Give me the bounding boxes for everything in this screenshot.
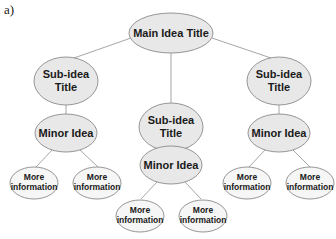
edge-main-sub-right	[212, 38, 271, 58]
info-label-line2: information	[11, 182, 58, 192]
info-label-line1: More	[87, 172, 108, 182]
edge-minor-right-leaf-2	[293, 150, 310, 167]
info-label-line1: More	[300, 172, 321, 182]
info-label-line1: More	[193, 205, 214, 215]
sub-idea-label-line1: Sub-idea	[148, 114, 195, 126]
edge-minor-left-leaf-2	[80, 150, 98, 167]
minor-idea-node-right: Minor Idea	[248, 114, 310, 152]
sub-idea-node-middle: Sub-idea Title	[139, 103, 203, 151]
sub-idea-label-line2: Title	[160, 127, 182, 139]
info-node-right-1: More information	[223, 167, 271, 199]
sub-idea-node-right: Sub-idea Title	[247, 57, 311, 105]
sub-idea-label-line1: Sub-idea	[43, 68, 90, 80]
info-label-line1: More	[130, 205, 151, 215]
sub-idea-label-line2: Title	[55, 81, 77, 93]
info-label-line2: information	[224, 182, 271, 192]
info-label-line2: information	[287, 182, 334, 192]
info-label-line2: information	[74, 182, 121, 192]
minor-idea-label: Minor Idea	[251, 127, 307, 139]
info-node-middle-1: More information	[116, 200, 164, 232]
info-node-left-2: More information	[73, 167, 121, 199]
info-label-line2: information	[117, 215, 164, 225]
minor-idea-label: Minor Idea	[38, 127, 94, 139]
minor-idea-node-left: Minor Idea	[35, 114, 97, 152]
info-label-line1: More	[237, 172, 258, 182]
main-idea-label: Main Idea Title	[133, 27, 209, 39]
info-label-line2: information	[180, 215, 227, 225]
info-node-right-2: More information	[286, 167, 334, 199]
info-node-left-1: More information	[10, 167, 58, 199]
edge-main-sub-left	[74, 38, 131, 58]
concept-map-diagram: Main Idea Title Sub-idea Title Sub-idea …	[0, 0, 336, 239]
sub-idea-node-left: Sub-idea Title	[34, 57, 98, 105]
edge-minor-left-leaf-1	[36, 150, 52, 167]
edge-minor-middle-leaf-1	[141, 182, 157, 199]
minor-idea-node-middle: Minor Idea	[140, 146, 202, 184]
info-node-middle-2: More information	[179, 200, 227, 232]
info-label-line1: More	[24, 172, 45, 182]
minor-idea-label: Minor Idea	[143, 159, 199, 171]
edge-minor-middle-leaf-2	[185, 182, 201, 199]
sub-idea-label-line1: Sub-idea	[256, 68, 303, 80]
main-idea-node: Main Idea Title	[129, 13, 213, 53]
sub-idea-label-line2: Title	[268, 81, 290, 93]
edge-minor-right-leaf-1	[249, 150, 265, 167]
